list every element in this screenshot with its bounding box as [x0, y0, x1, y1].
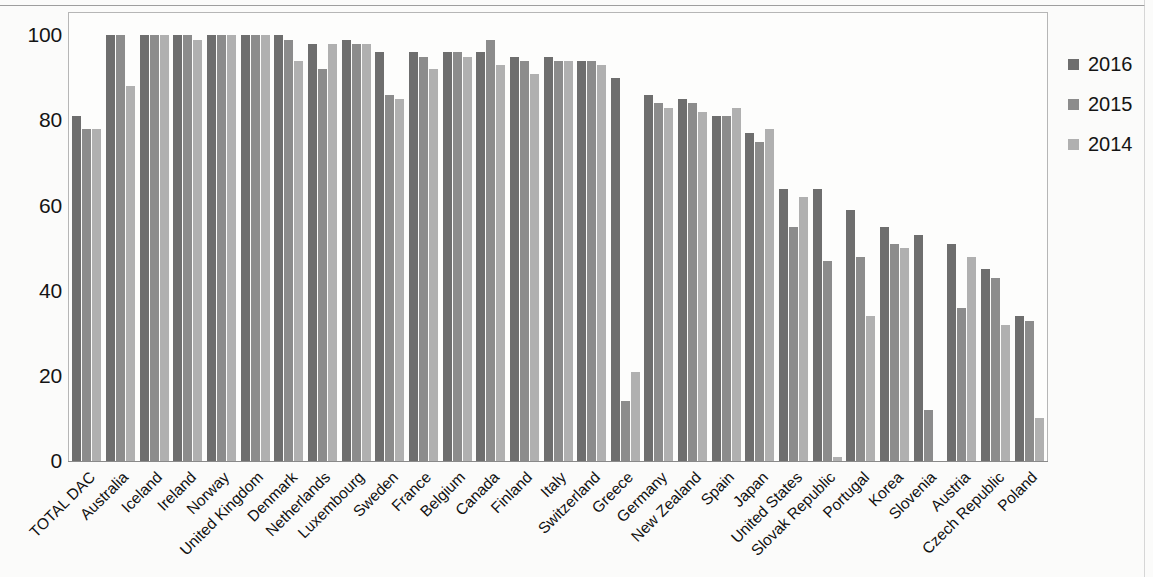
- bar: [755, 142, 764, 461]
- bar-group: [914, 14, 943, 461]
- bar: [554, 61, 563, 461]
- bar: [947, 244, 956, 461]
- bar: [530, 74, 539, 461]
- bar: [92, 129, 101, 461]
- bar: [967, 257, 976, 461]
- bar: [631, 372, 640, 461]
- bar: [611, 78, 620, 461]
- bar: [544, 57, 553, 461]
- bar: [342, 40, 351, 461]
- bar: [284, 40, 293, 461]
- bar-group: [745, 14, 774, 461]
- bar-group: [140, 14, 169, 461]
- bar: [261, 35, 270, 461]
- x-axis-tick-label: Austria: [679, 469, 973, 577]
- bar: [308, 44, 317, 461]
- bar: [82, 129, 91, 461]
- page-top-rule: [0, 5, 1145, 6]
- bar: [328, 44, 337, 461]
- bar: [890, 244, 899, 461]
- bar-group: [678, 14, 707, 461]
- bars-container: [70, 14, 1046, 461]
- bar: [664, 108, 673, 461]
- x-axis-tick-label: United States: [511, 469, 805, 577]
- bar: [395, 99, 404, 461]
- x-axis-tick-label: Switzerland: [309, 469, 603, 577]
- bar: [698, 112, 707, 461]
- bar: [274, 35, 283, 461]
- bar: [140, 35, 149, 461]
- bar: [577, 61, 586, 461]
- y-axis-tick-label: 40: [10, 280, 62, 301]
- x-axis-tick-label: Portugal: [578, 469, 872, 577]
- bar-group: [308, 14, 337, 461]
- x-axis-baseline: [68, 461, 1048, 462]
- legend-swatch-icon: [1068, 99, 1079, 110]
- bar: [991, 278, 1000, 461]
- bar: [385, 95, 394, 461]
- bar: [116, 35, 125, 461]
- bar: [1025, 321, 1034, 461]
- bar-group: [644, 14, 673, 461]
- bar: [799, 197, 808, 461]
- bar-group: [611, 14, 640, 461]
- legend-item-label: 2016: [1088, 54, 1133, 74]
- bar: [654, 103, 663, 461]
- bar: [866, 316, 875, 461]
- x-axis-tick-label: Sweden: [107, 469, 401, 577]
- bar: [352, 44, 361, 461]
- bar: [981, 269, 990, 461]
- bar: [597, 65, 606, 461]
- x-axis-tick-label: Germany: [376, 469, 670, 577]
- bar: [722, 116, 731, 461]
- bar: [207, 35, 216, 461]
- x-axis-tick-label: Finland: [242, 469, 536, 577]
- x-axis-tick-label: Luxembourg: [73, 469, 367, 577]
- chart-legend: 201620152014: [1068, 44, 1148, 164]
- bar-group: [72, 14, 101, 461]
- bar: [587, 61, 596, 461]
- y-axis: 020406080100: [0, 0, 62, 500]
- bar-group: [241, 14, 270, 461]
- x-axis-tick-label: Japan: [477, 469, 771, 577]
- bar: [924, 410, 933, 461]
- legend-item-label: 2015: [1088, 94, 1133, 114]
- y-axis-tick-label: 20: [10, 365, 62, 386]
- bar: [957, 308, 966, 461]
- x-axis-tick-label: Canada: [208, 469, 502, 577]
- bar-group: [443, 14, 472, 461]
- bar-group: [173, 14, 202, 461]
- bar: [900, 248, 909, 461]
- bar-group: [544, 14, 573, 461]
- bar: [227, 35, 236, 461]
- bar: [678, 99, 687, 461]
- bar: [183, 35, 192, 461]
- bar: [644, 95, 653, 461]
- bar: [241, 35, 250, 461]
- y-axis-tick-label: 80: [10, 109, 62, 130]
- bar: [476, 52, 485, 461]
- legend-swatch-icon: [1068, 59, 1079, 70]
- x-axis-tick-label: New Zealand: [410, 469, 704, 577]
- legend-item-label: 2014: [1088, 134, 1133, 154]
- x-axis-tick-label: Netherlands: [40, 469, 334, 577]
- bar: [463, 57, 472, 461]
- bar-group: [476, 14, 505, 461]
- bar-group: [510, 14, 539, 461]
- x-axis-tick-label: Spain: [443, 469, 737, 577]
- bar: [833, 457, 842, 461]
- legend-item[interactable]: 2016: [1068, 44, 1148, 84]
- x-axis-tick-label: Poland: [746, 469, 1040, 577]
- x-axis-tick-label: Slovak Republic: [544, 469, 838, 577]
- x-axis-tick-label: Czech Republic: [713, 469, 1007, 577]
- bar: [217, 35, 226, 461]
- legend-item[interactable]: 2015: [1068, 84, 1148, 124]
- y-axis-tick-label: 100: [10, 24, 62, 45]
- bar: [846, 210, 855, 461]
- legend-item[interactable]: 2014: [1068, 124, 1148, 164]
- bar: [745, 133, 754, 461]
- bar-group: [880, 14, 909, 461]
- bar: [429, 69, 438, 461]
- bar: [765, 129, 774, 461]
- bar: [712, 116, 721, 461]
